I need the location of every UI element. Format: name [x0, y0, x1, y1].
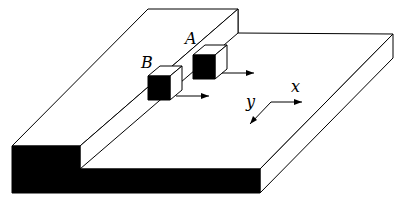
label-b: B	[140, 53, 153, 72]
axis-label-y: y	[245, 92, 256, 111]
raised-slab-front-face	[12, 146, 80, 193]
cube-b	[148, 66, 182, 100]
cube-a-front	[193, 55, 215, 79]
axis-label-x: x	[291, 77, 300, 96]
label-a: A	[183, 29, 197, 48]
base-plate-front-face	[80, 169, 260, 193]
cube-a	[193, 45, 227, 79]
cube-b-front	[148, 76, 170, 100]
stepped-slab-diagram: A B x y	[0, 0, 400, 198]
